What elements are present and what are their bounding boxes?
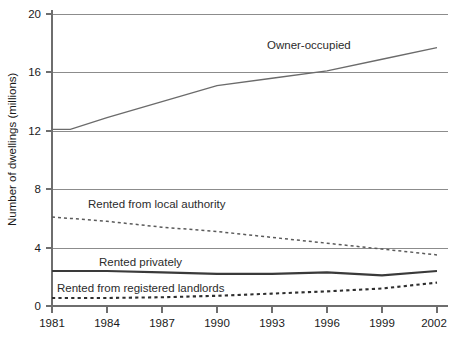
- y-label-12: 12: [28, 125, 41, 137]
- annotation-owner-occupied: Owner-occupied: [267, 39, 351, 51]
- y-tick-labels: 20 16 12 8 4 0: [28, 8, 41, 312]
- series-path-local-authority: [52, 217, 437, 255]
- y-label-16: 16: [28, 66, 41, 78]
- x-label-1987: 1987: [149, 317, 175, 329]
- y-label-0: 0: [35, 300, 41, 312]
- series-annotations: Owner-occupied Rented from local authori…: [57, 39, 351, 294]
- housing-tenure-line-chart: 20 16 12 8 4 0 1981 1984 1987 1990 1993 …: [0, 0, 456, 339]
- gridlines: [52, 14, 448, 248]
- x-label-1999: 1999: [369, 317, 395, 329]
- x-label-2002: 2002: [421, 317, 447, 329]
- series-path-owner-occupied: [52, 48, 437, 130]
- y-label-20: 20: [28, 8, 41, 20]
- x-label-1993: 1993: [259, 317, 285, 329]
- x-label-1984: 1984: [94, 317, 120, 329]
- x-label-1996: 1996: [314, 317, 340, 329]
- annotation-rented-privately: Rented privately: [99, 256, 182, 268]
- annotation-registered-landlords: Rented from registered landlords: [57, 282, 225, 294]
- x-label-1990: 1990: [204, 317, 230, 329]
- x-label-1981: 1981: [39, 317, 65, 329]
- y-label-8: 8: [35, 183, 41, 195]
- series-path-rented-privately: [52, 271, 437, 275]
- y-axis-title: Number of dwellings (millions): [6, 72, 18, 226]
- y-tickmarks: [46, 14, 52, 306]
- x-tick-labels: 1981 1984 1987 1990 1993 1996 1999 2002: [39, 317, 447, 329]
- x-tickmarks: [52, 306, 437, 313]
- y-label-4: 4: [35, 242, 42, 254]
- chart-page: 20 16 12 8 4 0 1981 1984 1987 1990 1993 …: [0, 0, 456, 339]
- annotation-local-authority: Rented from local authority: [88, 198, 226, 210]
